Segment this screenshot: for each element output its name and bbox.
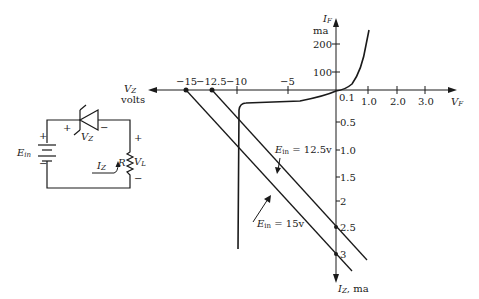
load-minus: − (134, 173, 142, 184)
annot-15v-arrowhead-icon (264, 195, 271, 203)
tick-iz-1-5: 1.5 (340, 172, 356, 183)
vf-axis-label: VF (451, 96, 464, 108)
v-axis-left-arrow-icon (148, 87, 157, 93)
annot-12-5v: Ein = 12.5v (274, 144, 332, 156)
wire-bottom (47, 170, 130, 188)
load-label: VL (134, 156, 146, 168)
load-line-12-5v-axis-dot (334, 225, 338, 229)
load-line-15v-axis-dot (334, 252, 338, 256)
circuit-schematic: + − Ein + − VZ R + VL − IZ (16, 105, 146, 188)
source-plus: + (39, 130, 47, 141)
diode-plus: + (63, 122, 71, 133)
resistor-icon (127, 148, 133, 180)
iz-axis-label: IZ, ma (337, 283, 369, 295)
zener-diagram: + − Ein + − VZ R + VL − IZ V (0, 0, 479, 299)
tick-if-200: 200 (313, 39, 332, 50)
tick-iz-2-5: 2.5 (340, 222, 356, 233)
tick-vz-5: −5 (280, 76, 295, 87)
tick-vf-2: 2.0 (390, 96, 406, 107)
tick-vf-3: 3.0 (418, 96, 434, 107)
graph: VZ volts VF IF ma IZ, ma −15 −12.5 −10 −… (120, 13, 464, 295)
source-minus: − (39, 158, 47, 169)
load-plus: + (134, 132, 142, 143)
annot-15v: Ein = 15v (256, 218, 305, 230)
current-label: IZ (96, 160, 106, 172)
if-axis-label: IF (322, 13, 333, 25)
tick-vf-0-1: 0.1 (339, 92, 355, 103)
tick-iz-0-5: 0.5 (340, 117, 356, 128)
annot-12-5v-arrowhead-icon (275, 167, 281, 174)
tick-iz-1-0: 1.0 (340, 145, 356, 156)
if-units: ma (313, 25, 328, 36)
tick-vf-1: 1.0 (361, 96, 377, 107)
tick-vz-15: −15 (176, 76, 197, 87)
load-line-15v (186, 90, 352, 271)
i-axis-down-arrow-icon (333, 274, 339, 283)
tick-if-100: 100 (313, 67, 332, 78)
tick-vz-12-5: −12.5 (196, 76, 227, 87)
iz-ticks (336, 122, 340, 201)
tick-iz-2: 2 (340, 196, 346, 207)
source-label: Ein (16, 147, 32, 159)
diode-label: VZ (81, 131, 93, 143)
i-axis-up-arrow-icon (333, 18, 339, 27)
vz-units: volts (120, 94, 145, 105)
load-line-12-5v-intercept-dot (210, 88, 215, 93)
tick-vz-10: −10 (226, 76, 247, 87)
v-axis-right-arrow-icon (448, 87, 457, 93)
load-line-15v-intercept-dot (184, 88, 189, 93)
diode-minus: − (100, 122, 108, 133)
